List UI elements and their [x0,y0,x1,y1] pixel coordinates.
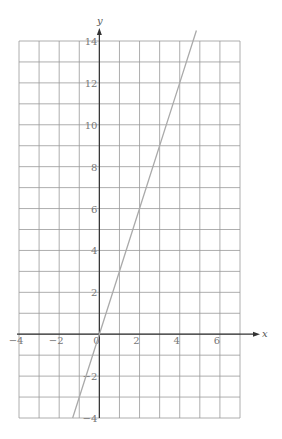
tick-labels: −4−20246−4−22468101214 [9,36,220,424]
grid [19,41,240,418]
y-tick-label: 8 [91,162,97,173]
x-tick-label: 2 [133,335,139,346]
x-axis-label: x [262,328,268,339]
y-axis-label: y [96,15,103,26]
y-tick-label: 4 [91,245,97,256]
y-tick-label: 14 [85,36,98,47]
x-tick-label: 6 [214,335,220,346]
y-tick-label: 2 [91,287,97,298]
y-tick-label: 12 [85,78,98,89]
x-tick-label: 4 [174,335,180,346]
y-tick-label: 10 [85,120,98,131]
x-tick-label: −4 [9,335,24,346]
axes [17,28,260,418]
y-tick-label: −4 [83,413,98,424]
y-tick-label: 6 [91,204,97,215]
x-tick-label: −2 [49,335,64,346]
graph-plot: −4−20246−4−22468101214 x y [0,0,282,439]
